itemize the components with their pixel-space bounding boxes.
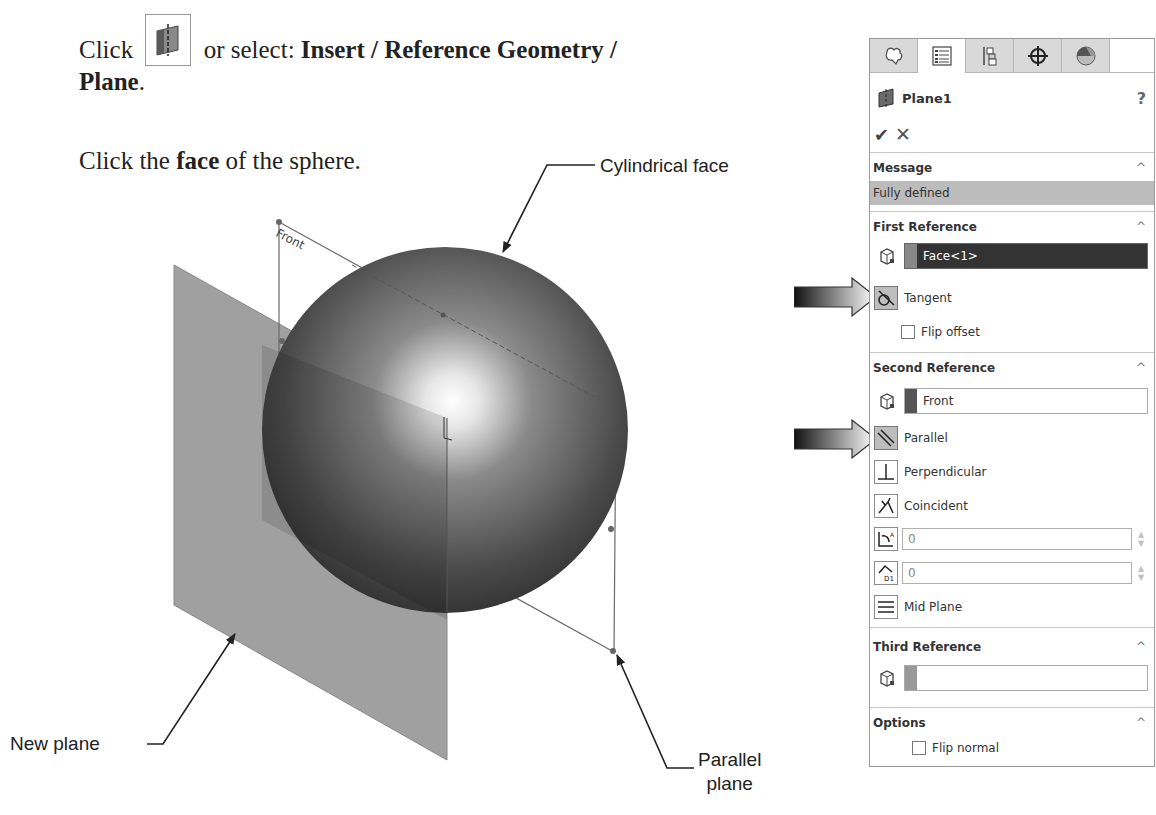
selection-cube-icon [874,244,900,268]
angle-toggle[interactable]: A [874,527,898,551]
tab-property-manager[interactable] [918,39,966,73]
distance-spinner[interactable]: ▲▼ [1134,562,1148,584]
coincident-icon [876,496,896,516]
parallel-icon [876,428,896,448]
mid-plane-icon [876,597,896,617]
tab-dimxpert-manager[interactable] [1014,39,1062,73]
first-reference-selection-row: Face<1> [874,243,1148,269]
collapse-chevron-icon[interactable]: ^ [1136,361,1146,375]
tab-display-manager[interactable] [1062,39,1110,73]
coincident-option-row[interactable]: Coincident [874,493,1148,519]
mid-plane-toggle[interactable] [874,595,898,619]
selection-cube-icon [874,389,900,413]
distance-input[interactable]: 0 [902,562,1132,584]
angle-spinner[interactable]: ▲▼ [1134,528,1148,550]
callout-cylindrical-face: Cylindrical face [600,155,729,177]
tangent-toggle[interactable] [874,286,898,310]
help-button[interactable]: ? [1137,89,1146,108]
first-reference-header[interactable]: First Reference ^ [873,218,1146,236]
parallel-toggle[interactable] [874,426,898,450]
third-reference-header[interactable]: Third Reference ^ [873,638,1146,656]
tangent-icon [876,288,896,308]
distance-toggle[interactable]: D1 [874,561,898,585]
svg-text:A: A [890,531,895,538]
options-header[interactable]: Options ^ [873,714,1146,732]
perpendicular-toggle[interactable] [874,460,898,484]
callout-parallel-plane: Parallel plane [698,748,761,796]
plane-property-manager: Plane1 ? ✔ ✕ Message ^ Fully defined Fir… [869,38,1155,767]
pointer-arrow-icon [794,277,878,317]
cancel-button[interactable]: ✕ [895,123,911,145]
tab-configuration-manager[interactable] [966,39,1014,73]
offset-distance-icon: D1 [876,563,896,583]
coincident-toggle[interactable] [874,494,898,518]
angle-icon: A [876,529,896,549]
perpendicular-option-row[interactable]: Perpendicular [874,459,1148,485]
appearance-sphere-icon [1075,45,1097,67]
second-reference-header[interactable]: Second Reference ^ [873,359,1146,377]
sphere-plane-illustration [0,0,860,815]
third-reference-selection-box[interactable] [904,665,1148,691]
flip-offset-checkbox-row[interactable]: Flip offset [901,322,980,342]
collapse-chevron-icon[interactable]: ^ [1136,640,1146,654]
third-reference-selection-row [874,665,1148,691]
perpendicular-icon [876,462,896,482]
angle-input[interactable]: 0 [902,528,1132,550]
panel-title: Plane1 [902,91,952,106]
mid-plane-option-row[interactable]: Mid Plane [874,594,1148,620]
angle-row: A 0 ▲▼ [874,526,1148,552]
crosshair-icon [1027,45,1049,67]
svg-text:D1: D1 [884,575,894,583]
reference-plane-icon [878,88,894,108]
configuration-icon [980,45,1000,67]
manager-tabs [870,39,1110,73]
ok-cancel-row: ✔ ✕ [874,123,911,145]
tangent-option-row[interactable]: Tangent [874,285,1148,311]
callout-new-plane: New plane [10,733,100,755]
flip-normal-checkbox-row[interactable]: Flip normal [912,738,999,758]
flip-normal-checkbox[interactable] [912,741,926,755]
collapse-chevron-icon[interactable]: ^ [1136,220,1146,234]
message-section-header[interactable]: Message ^ [873,159,1146,177]
parallel-option-row[interactable]: Parallel [874,425,1148,451]
tab-feature-manager[interactable] [870,39,918,73]
collapse-chevron-icon[interactable]: ^ [1136,716,1146,730]
selection-cube-icon [874,666,900,690]
feature-tree-icon [883,46,905,66]
second-reference-selection-box[interactable]: Front [904,388,1148,414]
property-list-icon [932,46,952,66]
panel-title-row: Plane1 ? [878,87,1146,109]
ok-button[interactable]: ✔ [874,124,889,145]
first-reference-selection-box[interactable]: Face<1> [904,243,1148,269]
second-reference-selection-row: Front [874,388,1148,414]
distance-row: D1 0 ▲▼ [874,560,1148,586]
pointer-arrow-icon [794,419,878,459]
flip-offset-checkbox[interactable] [901,325,915,339]
status-message: Fully defined [870,181,1154,205]
collapse-chevron-icon[interactable]: ^ [1136,161,1146,175]
